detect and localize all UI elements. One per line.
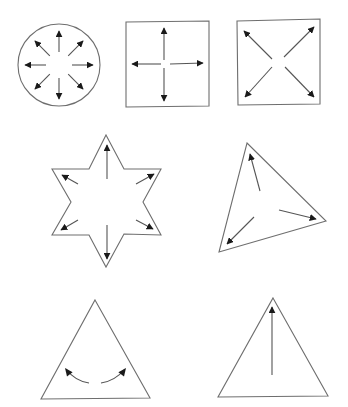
- square-diagonal-shape: [237, 19, 320, 105]
- arrow-icon: [136, 174, 154, 184]
- triangle-rotation-shape: [41, 300, 150, 399]
- triangle-reflection-shape: [218, 298, 328, 397]
- radial-arrow-icon: [68, 74, 83, 89]
- shapes-layer: [18, 19, 328, 399]
- radial-arrow-icon: [68, 41, 83, 56]
- arrow-icon: [62, 175, 78, 184]
- arrow-icon: [244, 31, 272, 59]
- arrow-icon: [227, 217, 254, 244]
- arrow-icon: [284, 27, 314, 57]
- triangle-outline: [218, 298, 328, 397]
- hexagram-shape: [52, 135, 161, 267]
- symmetry-figure: [0, 0, 348, 407]
- arrow-icon: [279, 210, 316, 219]
- square-axis-shape: [126, 21, 209, 107]
- arrow-icon: [170, 63, 203, 64]
- arrow-icon: [136, 220, 153, 229]
- rotated-triangle-shape: [219, 143, 326, 252]
- triangle-outline: [41, 300, 150, 399]
- arrow-icon: [285, 67, 314, 97]
- arrow-icon: [245, 67, 272, 97]
- arrow-icon: [61, 220, 78, 230]
- radial-arrow-icon: [35, 41, 50, 56]
- radial-arrow-icon: [35, 74, 50, 89]
- arrow-icon: [250, 154, 260, 191]
- circle-shape: [18, 24, 100, 106]
